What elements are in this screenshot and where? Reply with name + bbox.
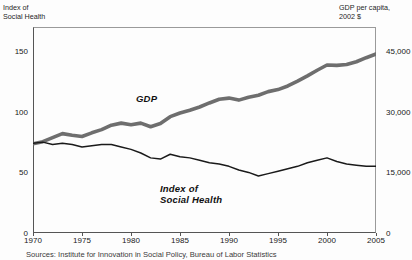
y-left-tick-100: 100 bbox=[0, 107, 28, 116]
x-tick-1995: 1995 bbox=[269, 236, 287, 245]
y-left-tick-50: 50 bbox=[0, 168, 28, 177]
index-of-social-health-line-series bbox=[33, 142, 376, 176]
chart-canvas: Index of Social Health GDP per capita, 2… bbox=[0, 0, 412, 260]
x-tick-1990: 1990 bbox=[220, 236, 238, 245]
y-right-tick-45000: 45,000 bbox=[386, 47, 410, 56]
x-tick-2000: 2000 bbox=[318, 236, 336, 245]
x-tick-1985: 1985 bbox=[171, 236, 189, 245]
x-tick-1980: 1980 bbox=[122, 236, 140, 245]
x-tick-1970: 1970 bbox=[24, 236, 42, 245]
left-axis-title: Index of Social Health bbox=[3, 3, 45, 21]
y-left-tick-150: 150 bbox=[0, 47, 28, 56]
x-tick-2005: 2005 bbox=[367, 236, 385, 245]
source-note: Sources: Institute for Innovation in Soc… bbox=[26, 250, 277, 259]
y-right-tick-0: 0 bbox=[386, 229, 390, 238]
index-series-label: Index of Social Health bbox=[160, 183, 222, 205]
gdp-series-label: GDP bbox=[136, 93, 157, 104]
x-tick-1975: 1975 bbox=[73, 236, 91, 245]
y-right-tick-30000: 30,000 bbox=[386, 107, 410, 116]
gdp-line-series bbox=[33, 54, 376, 144]
y-right-tick-15000: 15,000 bbox=[386, 168, 410, 177]
right-axis-title: GDP per capita, 2002 $ bbox=[339, 3, 409, 21]
